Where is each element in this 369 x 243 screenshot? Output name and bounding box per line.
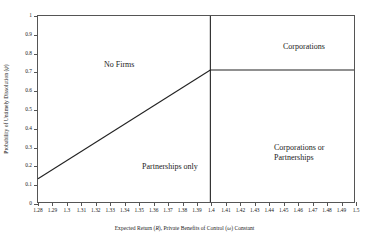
y-tick-mark <box>34 35 38 36</box>
x-tick-mark <box>211 202 212 206</box>
x-tick-label: 1.49 <box>337 208 346 213</box>
y-axis-symbol-psi: ψ <box>3 66 9 69</box>
x-tick-label: 1.3 <box>64 208 71 213</box>
x-tick-mark <box>168 202 169 206</box>
y-tick-mark <box>34 185 38 186</box>
y-tick-mark <box>34 110 38 111</box>
y-tick-mark <box>34 16 38 17</box>
y-tick-label: 0.4 <box>25 126 32 131</box>
x-tick-label: 1.36 <box>149 208 158 213</box>
y-tick-mark <box>34 54 38 55</box>
x-tick-label: 1.45 <box>279 208 288 213</box>
y-tick-label: 0 <box>29 201 32 206</box>
region-label-no-firms: No Firms <box>104 60 134 70</box>
x-tick-mark <box>284 202 285 206</box>
region-label-corporations-or-partnerships: Corporations or Partnerships <box>274 143 324 163</box>
x-tick-label: 1.48 <box>322 208 331 213</box>
x-tick-mark <box>154 202 155 206</box>
chart-figure: Probability of Untimely Dissolution (ψ) … <box>0 0 369 243</box>
y-tick-mark <box>34 129 38 130</box>
x-tick-mark <box>96 202 97 206</box>
x-tick-mark <box>342 202 343 206</box>
x-tick-label: 1.42 <box>236 208 245 213</box>
y-tick-mark <box>34 148 38 149</box>
y-tick-label: 0.7 <box>25 70 32 75</box>
x-tick-mark <box>38 202 39 206</box>
x-tick-mark <box>125 202 126 206</box>
y-tick-label: 0.1 <box>25 182 32 187</box>
x-tick-label: 1.37 <box>163 208 172 213</box>
y-tick-label: 0.6 <box>25 88 32 93</box>
x-tick-label: 1.4 <box>208 208 215 213</box>
x-tick-mark <box>110 202 111 206</box>
x-tick-label: 1.44 <box>265 208 274 213</box>
x-axis-title-mid: ), Private Benefits of Control ( <box>159 225 227 231</box>
x-tick-label: 1.39 <box>192 208 201 213</box>
y-tick-label: 1 <box>29 13 32 18</box>
x-tick-label: 1.46 <box>293 208 302 213</box>
x-tick-label: 1.35 <box>134 208 143 213</box>
x-tick-mark <box>255 202 256 206</box>
y-axis-title-container: Probability of Untimely Dissolution (ψ) <box>2 15 12 203</box>
x-tick-mark <box>67 202 68 206</box>
x-tick-label: 1.34 <box>120 208 129 213</box>
region-label-corporations: Corporations <box>283 42 325 52</box>
y-tick-label: 0.5 <box>25 107 32 112</box>
x-tick-label: 1.33 <box>106 208 115 213</box>
region-label-partnerships-only: Partnerships only <box>142 162 198 172</box>
y-axis-title: Probability of Untimely Dissolution (ψ) <box>4 64 10 153</box>
x-tick-mark <box>298 202 299 206</box>
x-tick-mark <box>197 202 198 206</box>
x-tick-label: 1.47 <box>308 208 317 213</box>
y-tick-label: 0.3 <box>25 145 32 150</box>
x-tick-mark <box>327 202 328 206</box>
x-tick-label: 1.29 <box>48 208 57 213</box>
x-tick-label: 1.43 <box>250 208 259 213</box>
y-tick-mark <box>34 72 38 73</box>
x-tick-mark <box>139 202 140 206</box>
y-tick-mark <box>34 91 38 92</box>
y-tick-label: 0.8 <box>25 51 32 56</box>
x-tick-label: 1.32 <box>91 208 100 213</box>
x-tick-mark <box>183 202 184 206</box>
x-axis-title: Expected Return (R), Private Benefits of… <box>0 226 369 232</box>
y-tick-label: 0.9 <box>25 32 32 37</box>
x-tick-mark <box>240 202 241 206</box>
x-tick-label: 1.5 <box>353 208 360 213</box>
x-tick-mark <box>356 202 357 206</box>
x-tick-label: 1.28 <box>33 208 42 213</box>
x-tick-label: 1.41 <box>221 208 230 213</box>
x-axis-title-prefix: Expected Return ( <box>115 225 156 231</box>
x-tick-mark <box>313 202 314 206</box>
y-axis-title-prefix: Probability of Untimely Dissolution ( <box>3 70 9 154</box>
x-axis-title-suffix: ) Constant <box>231 225 254 231</box>
x-tick-mark <box>81 202 82 206</box>
x-tick-label: 1.31 <box>77 208 86 213</box>
y-axis-title-suffix: ) <box>3 64 9 66</box>
x-tick-mark <box>269 202 270 206</box>
y-tick-mark <box>34 166 38 167</box>
x-tick-mark <box>52 202 53 206</box>
x-tick-mark <box>226 202 227 206</box>
y-tick-label: 0.2 <box>25 164 32 169</box>
plot-area: 00.10.20.30.40.50.60.70.80.91 1.281.291.… <box>37 15 355 203</box>
x-tick-label: 1.38 <box>178 208 187 213</box>
